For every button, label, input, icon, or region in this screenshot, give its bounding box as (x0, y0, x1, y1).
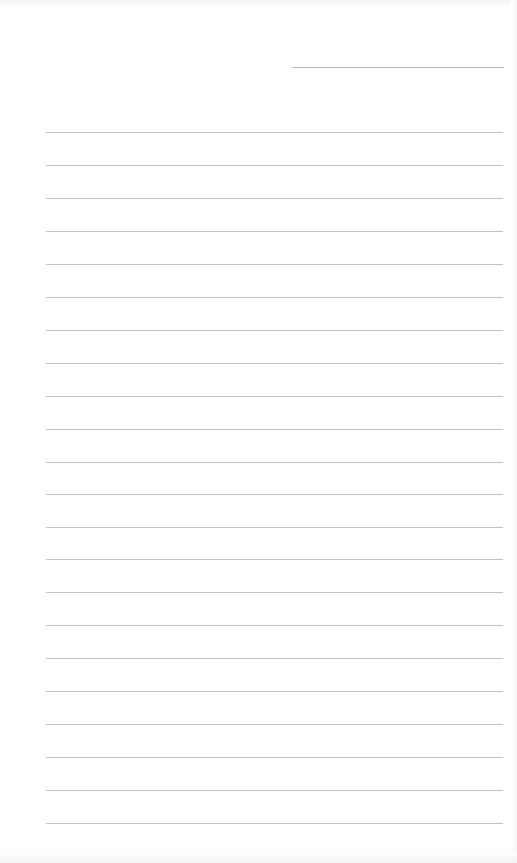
ruled-line (46, 823, 503, 824)
ruled-line (46, 396, 503, 397)
ruled-line (46, 330, 503, 331)
ruled-line (46, 625, 503, 626)
ruled-line (46, 231, 503, 232)
page-edge-shadow (511, 0, 517, 863)
ruled-line (46, 494, 503, 495)
ruled-line (46, 691, 503, 692)
ruled-line (46, 264, 503, 265)
ruled-line (46, 297, 503, 298)
name-field-line (292, 67, 504, 68)
lined-paper-page (0, 0, 517, 863)
ruled-line (46, 165, 503, 166)
ruled-line (46, 363, 503, 364)
ruled-line (46, 757, 503, 758)
ruled-line (46, 724, 503, 725)
scan-band-bottom (0, 853, 517, 863)
ruled-line (46, 527, 503, 528)
scan-band-top (0, 0, 517, 6)
ruled-line (46, 559, 503, 560)
ruled-line (46, 790, 503, 791)
ruled-line (46, 132, 503, 133)
ruled-line (46, 592, 503, 593)
ruled-line (46, 658, 503, 659)
ruled-line (46, 462, 503, 463)
ruled-line (46, 198, 503, 199)
ruled-line (46, 429, 503, 430)
